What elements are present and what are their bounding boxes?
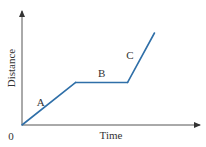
series-layer <box>22 33 154 125</box>
y-axis-label: Distance <box>5 49 17 88</box>
distance-time-chart: ABC 0 Time Distance <box>0 0 206 147</box>
segment-label-b: B <box>98 67 105 79</box>
segment-label-c: C <box>126 49 133 61</box>
origin-label: 0 <box>8 130 14 142</box>
x-axis-label: Time <box>100 129 123 141</box>
line-segment-0 <box>22 82 76 125</box>
segment-label-a: A <box>37 96 45 108</box>
annotation-layer: ABC <box>37 49 134 108</box>
